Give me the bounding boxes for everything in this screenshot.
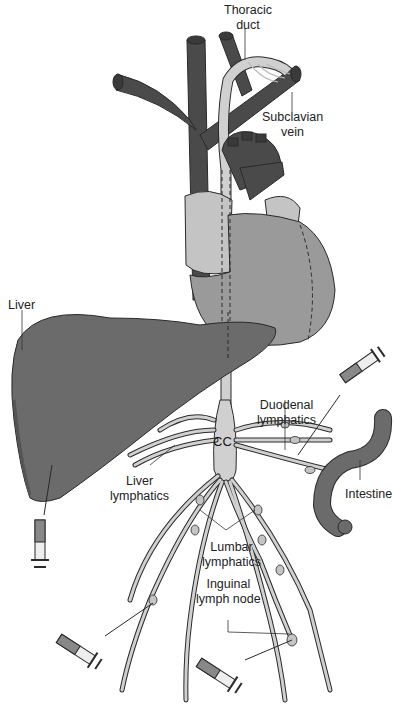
label-lumbar-lymphatics: Lumbar lymphatics [202,540,261,570]
label-duodenal-lymphatics: Duodenal lymphatics [257,398,316,428]
intestine [322,418,383,534]
label-subclavian-vein: Subclavian vein [262,110,323,140]
right-atrium [185,191,232,274]
label-cisterna-chyli: CC [213,434,232,449]
label-liver-lymphatics: Liver lymphatics [110,474,169,504]
label-inguinal-lymph-node: Inguinal lymph node [196,577,261,607]
label-liver: Liver [8,298,35,313]
left-brachiocephalic-vein [116,75,196,130]
label-thoracic-duct: Thoracic duct [224,3,272,33]
pulmonary-artery [240,162,284,200]
label-intestine: Intestine [345,487,392,502]
